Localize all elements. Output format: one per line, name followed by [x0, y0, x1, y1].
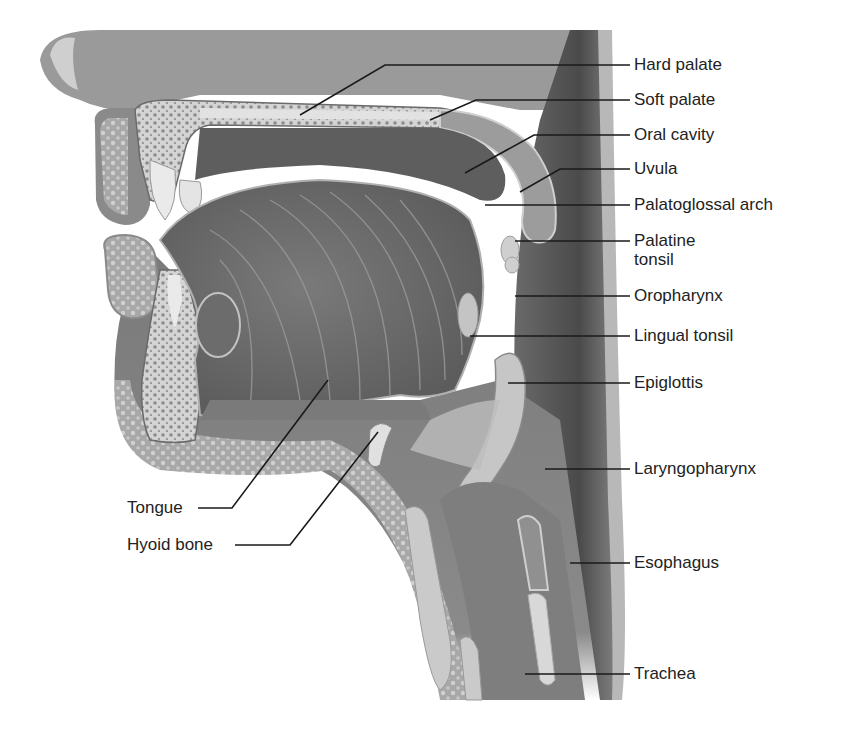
label-hyoid-bone: Hyoid bone [127, 535, 213, 554]
label-palatoglossal-arch: Palatoglossal arch [634, 195, 773, 214]
label-esophagus: Esophagus [634, 553, 719, 572]
label-palatine-tonsil: Palatine tonsil [634, 231, 695, 269]
label-epiglottis: Epiglottis [634, 373, 703, 392]
label-uvula: Uvula [634, 159, 677, 178]
label-oropharynx: Oropharynx [634, 286, 723, 305]
label-trachea: Trachea [634, 664, 696, 683]
label-hard-palate: Hard palate [634, 55, 722, 74]
label-tongue: Tongue [127, 498, 183, 517]
lingual-tonsil-shape [458, 293, 478, 337]
nasal-region [40, 30, 605, 110]
label-laryngopharynx: Laryngopharynx [634, 459, 756, 478]
label-soft-palate: Soft palate [634, 90, 715, 109]
lower-lip [104, 235, 160, 318]
label-oral-cavity: Oral cavity [634, 125, 714, 144]
label-lingual-tonsil: Lingual tonsil [634, 326, 733, 345]
tongue-shape [160, 180, 483, 420]
pharynx-anatomy-diagram [0, 0, 844, 736]
